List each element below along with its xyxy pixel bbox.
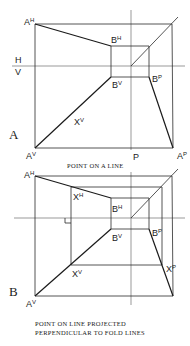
label-x-v-b: XV [72, 269, 82, 279]
caption-b-line1: POINT ON LINE PROJECTED [35, 320, 126, 327]
descriptive-geometry-figure: AH BH BV BP XV AV AP H V P A POINT ON A … [0, 0, 190, 346]
label-b-h: BH [111, 35, 121, 45]
diagram-b: AH XH BH BV BP XP XV AV B POINT ON LINE … [9, 169, 185, 336]
label-x-h-b: XH [73, 192, 83, 202]
label-a-p: AP [177, 151, 187, 161]
label-a-h: AH [24, 17, 34, 27]
label-x-p-b: XP [166, 264, 176, 274]
fold-label-v: V [15, 67, 21, 77]
fold-label-h: H [15, 55, 22, 65]
label-b-v-b: BV [112, 233, 122, 243]
line-ab-vertical-view [35, 77, 111, 148]
projector-a-right [172, 24, 173, 148]
label-a-h-b: AH [24, 170, 34, 180]
line-ab-horizontal-view [35, 24, 111, 46]
diagram-a: AH BH BV BP XV AV AP H V P A POINT ON A … [9, 10, 187, 169]
diagram-letter-b: B [9, 284, 18, 299]
label-b-p-b: BP [152, 228, 162, 238]
caption-b-line2: PERPENDICULAR TO FOLD LINES [35, 329, 145, 336]
projector-a-right-b [172, 176, 173, 296]
line-ab-vertical-view-b [35, 229, 111, 296]
label-b-h-b: BH [112, 204, 122, 214]
label-a-v: AV [26, 151, 36, 161]
line-ab-profile-view [149, 77, 173, 148]
label-b-p: BP [152, 74, 162, 84]
label-a-v-b: AV [26, 299, 36, 309]
label-x-v: XV [74, 117, 84, 127]
line-ab-profile-view-b [149, 229, 173, 296]
fold-label-p: P [133, 152, 139, 162]
caption-a: POINT ON A LINE [67, 162, 124, 169]
label-b-v: BV [112, 80, 122, 90]
diagram-letter-a: A [9, 127, 19, 142]
perpendicular-mark [65, 218, 71, 223]
